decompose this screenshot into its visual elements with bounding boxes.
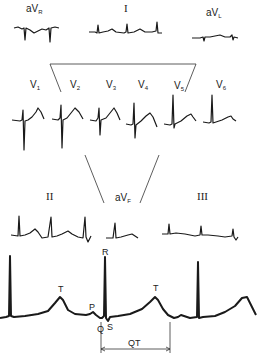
trace-lead-iii [162,224,238,240]
trace-v4 [126,103,157,138]
label-v6: V6 [216,80,226,93]
trace-avr [14,27,59,42]
trace-lead-ii [11,216,91,242]
label-v6-base: V [216,79,223,90]
label-avr-sub: R [38,9,42,15]
label-avl: aVL [206,8,222,21]
trace-v2 [52,105,83,148]
qt-interval-label: QT [128,338,141,348]
label-v5-sub: 5 [181,86,184,92]
label-v1-base: V [30,79,37,90]
trace-rhythm-strip [0,256,256,321]
label-avf-sub: F [127,198,131,204]
label-v2-sub: 2 [77,85,80,91]
label-v2: V2 [70,80,80,93]
wave-label-p: P [89,302,95,312]
label-lead-iii: III [197,191,208,201]
label-v4-base: V [138,79,145,90]
wave-label-s: S [107,322,113,332]
trace-v5 [164,95,196,128]
ecg-diagram [0,0,259,357]
label-v3: V3 [106,80,116,93]
trace-v3 [90,108,120,135]
label-v3-sub: 3 [113,85,116,91]
label-avr-base: aV [26,3,38,14]
label-avf: aVF [115,193,131,206]
label-v2-base: V [70,79,77,90]
wave-label-t2: T [153,283,159,293]
trace-lead-i [89,22,162,33]
wave-label-q: Q [97,324,104,334]
wave-label-t1: T [58,284,64,294]
label-v1: V1 [30,80,40,93]
label-avf-base: aV [115,192,127,203]
label-lead-ii: II [46,191,53,201]
label-v6-sub: 6 [223,85,226,91]
trace-avl [192,35,238,41]
label-avl-base: aV [206,7,218,18]
label-v5: V5 [174,81,184,94]
trace-avf [106,223,138,238]
trace-v1 [12,108,44,150]
label-v5-base: V [174,80,181,91]
label-v4-sub: 4 [145,85,148,91]
label-v3-base: V [106,79,113,90]
trace-v6 [203,95,236,123]
label-v1-sub: 1 [37,85,40,91]
wave-label-r: R [102,247,109,257]
label-lead-i: I [124,3,128,13]
label-avl-sub: L [218,13,221,19]
label-avr: aVR [26,4,43,17]
label-v4: V4 [138,80,148,93]
